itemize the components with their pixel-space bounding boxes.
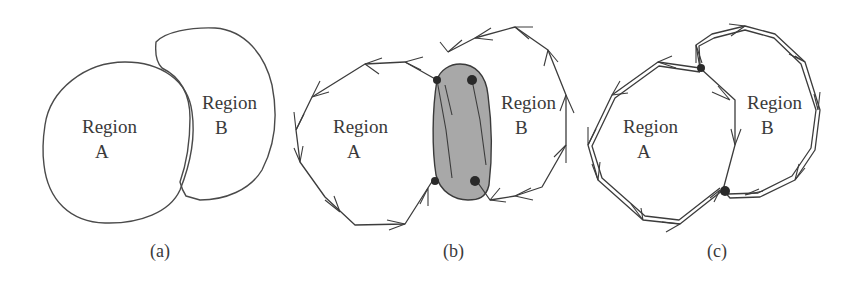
junction-vertex — [470, 176, 480, 186]
region-b-label-line2: B — [215, 117, 228, 138]
region-a-label-line2: A — [95, 141, 109, 162]
junction-vertex — [433, 76, 441, 84]
caption-c: (c) — [707, 241, 727, 262]
region-b-label-line2: B — [515, 117, 528, 138]
region-a-outline — [43, 62, 193, 223]
region-b-label-line1: Region — [202, 92, 257, 113]
region-a-edge-arrows — [588, 56, 741, 232]
region-b-outline — [156, 28, 275, 200]
caption-a: (a) — [150, 241, 170, 262]
caption-b: (b) — [443, 241, 464, 262]
region-a-label-line2: A — [347, 141, 361, 162]
region-a-label-line2: A — [637, 141, 651, 162]
region-b-label-line2: B — [761, 117, 774, 138]
junction-vertex — [431, 177, 439, 185]
junction-vertex — [467, 75, 477, 85]
figure-canvas: Region A Region B (a) — [0, 0, 866, 285]
region-a-label-line1: Region — [82, 116, 137, 137]
region-b-label-line1: Region — [747, 92, 802, 113]
shaded-gap-region — [433, 64, 491, 200]
region-b-label-line1: Region — [501, 92, 556, 113]
region-a-polygon — [588, 62, 735, 224]
panel-b: Region A Region B (b) — [294, 27, 574, 262]
region-a-label-line1: Region — [623, 116, 678, 137]
region-a-polygon-inner — [592, 66, 720, 220]
region-a-label-line1: Region — [333, 116, 388, 137]
junction-vertex — [697, 64, 705, 72]
region-a-edge-arrows — [294, 57, 428, 230]
panel-a: Region A Region B (a) — [43, 28, 275, 262]
junction-vertex — [720, 186, 730, 196]
panel-c: Region A Region B (c) — [588, 24, 820, 262]
